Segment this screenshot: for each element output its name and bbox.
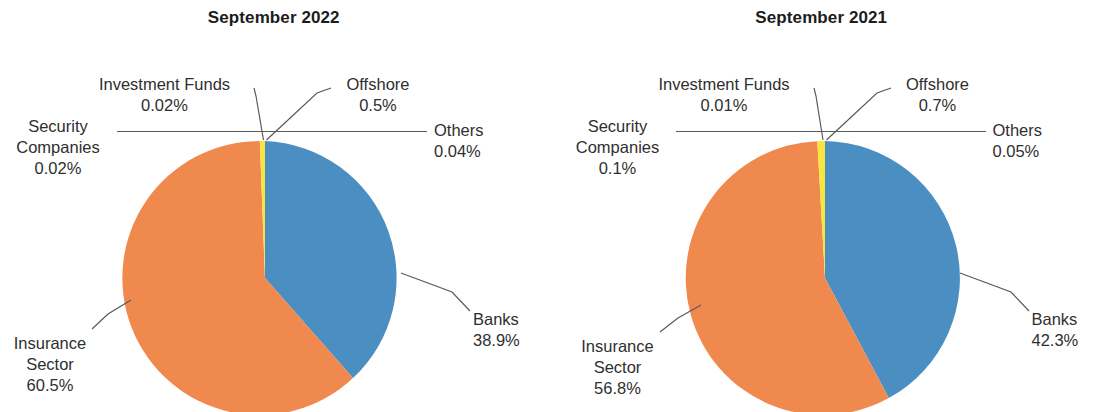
- label-security-companies-name2-right: Companies: [562, 137, 674, 158]
- label-banks-left: Banks 38.9%: [473, 309, 553, 351]
- label-offshore-value-left: 0.5%: [330, 95, 426, 116]
- label-insurance-right: Insurance Sector 56.8%: [568, 336, 668, 399]
- label-investment-funds-left: Investment Funds 0.02%: [82, 74, 247, 116]
- label-security-companies-name1-right: Security: [562, 116, 674, 137]
- label-security-companies-value-left: 0.02%: [2, 158, 114, 179]
- label-security-companies-value-right: 0.1%: [562, 158, 674, 179]
- label-banks-right: Banks 42.3%: [1032, 309, 1095, 351]
- label-banks-name-right: Banks: [1032, 309, 1095, 330]
- label-insurance-name1-left: Insurance: [0, 333, 100, 354]
- label-offshore-right: Offshore 0.7%: [890, 74, 986, 116]
- label-others-right: Others 0.05%: [993, 120, 1093, 162]
- label-insurance-value-left: 60.5%: [0, 375, 100, 396]
- leader-line-investment-funds-left: [254, 88, 264, 140]
- label-investment-funds-name-right: Investment Funds: [642, 74, 807, 95]
- chart-panel-september-2021: September 2021 Investment Funds 0.01%: [548, 0, 1095, 412]
- leader-line-banks-left: [401, 273, 470, 311]
- label-security-companies-name2-left: Companies: [2, 137, 114, 158]
- label-investment-funds-value-right: 0.01%: [642, 95, 807, 116]
- label-security-companies-right: Security Companies 0.1%: [562, 116, 674, 179]
- leader-line-offshore-left: [267, 88, 332, 140]
- pie-chart-comparison: September 2022 Investment Funds 0.02%: [0, 0, 1095, 412]
- label-insurance-name2-left: Sector: [0, 354, 100, 375]
- leader-line-investment-funds-right: [814, 88, 823, 140]
- label-insurance-name2-right: Sector: [568, 357, 668, 378]
- label-banks-value-left: 38.9%: [473, 330, 553, 351]
- label-investment-funds-right: Investment Funds 0.01%: [642, 74, 807, 116]
- label-others-left: Others 0.04%: [434, 120, 534, 162]
- label-offshore-name-left: Offshore: [330, 74, 426, 95]
- label-offshore-name-right: Offshore: [890, 74, 986, 95]
- label-banks-name-left: Banks: [473, 309, 553, 330]
- label-insurance-name1-right: Insurance: [568, 336, 668, 357]
- leader-line-offshore-right: [826, 88, 891, 140]
- label-others-name-right: Others: [993, 120, 1093, 141]
- label-others-value-left: 0.04%: [434, 141, 534, 162]
- label-insurance-left: Insurance Sector 60.5%: [0, 333, 100, 396]
- label-security-companies-left: Security Companies 0.02%: [2, 116, 114, 179]
- label-others-value-right: 0.05%: [993, 141, 1093, 162]
- chart-panel-september-2022: September 2022 Investment Funds 0.02%: [0, 0, 548, 412]
- label-investment-funds-value-left: 0.02%: [82, 95, 247, 116]
- leader-line-banks-right: [960, 273, 1029, 311]
- label-offshore-value-right: 0.7%: [890, 95, 986, 116]
- label-banks-value-right: 42.3%: [1032, 330, 1095, 351]
- label-security-companies-name1-left: Security: [2, 116, 114, 137]
- label-investment-funds-name-left: Investment Funds: [82, 74, 247, 95]
- label-offshore-left: Offshore 0.5%: [330, 74, 426, 116]
- label-insurance-value-right: 56.8%: [568, 378, 668, 399]
- label-others-name-left: Others: [434, 120, 534, 141]
